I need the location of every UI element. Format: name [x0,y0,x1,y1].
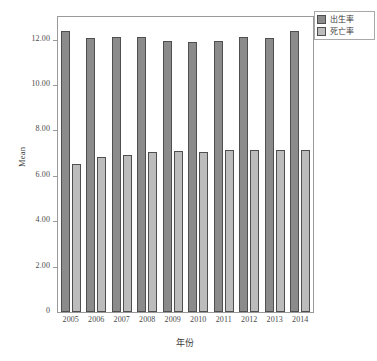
bar-birth-rate[interactable] [86,38,95,312]
bar-group [135,17,161,312]
bar-death-rate[interactable] [250,150,259,312]
bar-birth-rate[interactable] [214,41,223,312]
bar-chart: Mean 02.004.006.008.0010.0012.00 2005200… [0,0,377,361]
bar-death-rate[interactable] [97,157,106,312]
x-tick-label: 2010 [186,315,212,324]
bar-death-rate[interactable] [174,151,183,312]
legend-label: 出生率 [330,15,354,25]
bar-death-rate[interactable] [123,155,132,312]
y-tick-label: 8.00 [36,124,50,133]
bar-death-rate[interactable] [148,152,157,312]
legend-item[interactable]: 出生率 [317,14,372,25]
bar-birth-rate[interactable] [188,42,197,312]
x-tick-label: 2007 [109,315,135,324]
bar-death-rate[interactable] [225,150,234,312]
bar-birth-rate[interactable] [163,41,172,312]
bar-death-rate[interactable] [199,152,208,312]
bar-birth-rate[interactable] [265,38,274,312]
y-tick-label: 4.00 [36,215,50,224]
x-tick-label: 2012 [237,315,263,324]
bar-group [262,17,288,312]
x-tick-label: 2008 [135,315,161,324]
x-tick-label: 2013 [262,315,288,324]
x-tick-label: 2009 [160,315,186,324]
legend-item[interactable]: 死亡率 [317,26,372,37]
bar-group [211,17,237,312]
y-tick-label: 2.00 [36,261,50,270]
x-tick-label: 2011 [211,315,237,324]
bar-group [237,17,263,312]
bar-group [288,17,314,312]
bar-death-rate[interactable] [301,150,310,312]
chart-legend: 出生率死亡率 [314,11,375,40]
bar-group [58,17,84,312]
bars-layer [58,17,313,312]
y-axis-title: Mean [17,127,27,187]
y-tick-label: 6.00 [36,170,50,179]
x-axis-title: 年份 [57,336,314,349]
bar-group [109,17,135,312]
y-tick-label: 0 [46,306,50,315]
bar-birth-rate[interactable] [61,31,70,312]
bar-birth-rate[interactable] [239,37,248,312]
legend-swatch-icon [317,27,326,36]
y-tick-label: 10.00 [32,79,51,88]
x-tick-label: 2014 [288,315,314,324]
bar-birth-rate[interactable] [112,37,121,312]
bar-birth-rate[interactable] [137,37,146,312]
y-tick-label: 12.00 [32,34,51,43]
x-tick-label: 2005 [58,315,84,324]
legend-swatch-icon [317,15,326,24]
bar-death-rate[interactable] [72,164,81,312]
bar-group [160,17,186,312]
bar-group [186,17,212,312]
x-tick-label: 2006 [84,315,110,324]
bar-birth-rate[interactable] [290,31,299,312]
bar-group [84,17,110,312]
bar-death-rate[interactable] [276,150,285,312]
legend-label: 死亡率 [330,27,354,37]
